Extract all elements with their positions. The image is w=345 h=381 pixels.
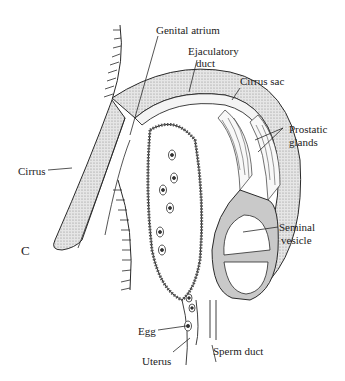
label-ejaculatory-duct-line2: duct [196, 57, 215, 69]
label-seminal-vesicle-line1: Seminal [279, 221, 315, 233]
label-ejaculatory-duct-line1: Ejaculatory [188, 45, 239, 57]
seminal-vesicle [212, 190, 278, 300]
label-seminal-vesicle-line2: vesicle [281, 234, 312, 246]
cirrus-anatomy-diagram [0, 0, 345, 381]
label-prostatic-glands-line1: Prostatic [289, 123, 328, 135]
label-cirrus-sac: Cirrus sac [240, 75, 284, 87]
sperm-duct [210, 300, 216, 340]
label-sperm-duct: Sperm duct [213, 345, 263, 357]
panel-letter: C [21, 243, 30, 259]
cirrus [54, 100, 125, 250]
label-uterus: Uterus [142, 355, 171, 367]
label-genital-atrium: Genital atrium [156, 24, 220, 36]
label-egg: Egg [138, 325, 156, 337]
label-prostatic-glands-line2: glands [289, 136, 318, 148]
label-cirrus: Cirrus [18, 165, 46, 177]
